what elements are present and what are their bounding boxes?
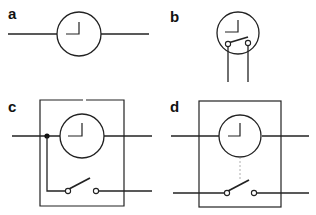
switch-terminal	[93, 188, 98, 193]
panel-b: b	[170, 8, 259, 82]
panel-d: d	[170, 98, 309, 207]
switch-terminal	[65, 188, 70, 193]
switch-blade	[69, 178, 90, 189]
panel-label-b: b	[170, 8, 179, 25]
panel-label-a: a	[8, 5, 17, 22]
clock-switch-icon	[217, 12, 259, 54]
panel-a: a	[8, 5, 149, 56]
switch-blade	[228, 180, 249, 191]
clock-icon	[60, 114, 104, 158]
panel-label-d: d	[170, 98, 179, 115]
clock-icon	[219, 115, 261, 157]
panel-label-c: c	[8, 98, 16, 115]
switch-terminal	[224, 190, 229, 195]
diagram-canvas: a b c	[0, 0, 316, 215]
switch-terminal	[225, 41, 230, 46]
switch-terminal	[251, 190, 256, 195]
clock-icon	[57, 12, 101, 56]
panel-c: c	[8, 98, 152, 206]
switch-terminal	[245, 40, 250, 45]
